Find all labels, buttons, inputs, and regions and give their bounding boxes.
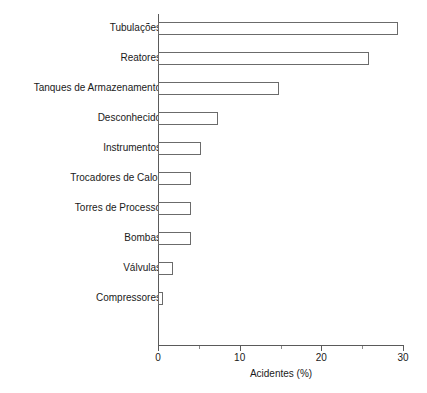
bar-category-label: Compressores (96, 291, 161, 305)
bar-row: Trocadores de Calor (0, 164, 427, 194)
bar (158, 232, 191, 245)
bar (158, 112, 218, 125)
x-tick-label: 10 (234, 352, 245, 364)
bar-category-label: Trocadores de Calor (70, 171, 161, 185)
x-tick-minor (281, 346, 282, 349)
bar-category-label: Instrumentos (103, 141, 161, 155)
x-tick-label: 20 (316, 352, 327, 364)
bars-layer: TubulaçõesReatoresTanques de Armazenamen… (0, 0, 427, 393)
bar (158, 262, 173, 275)
bar-row: Bombas (0, 224, 427, 254)
bar (158, 22, 398, 35)
bar-chart: TubulaçõesReatoresTanques de Armazenamen… (0, 0, 427, 393)
bar (158, 292, 163, 305)
bar (158, 142, 201, 155)
x-axis-title: Acidentes (%) (158, 368, 404, 380)
bar-category-label: Válvulas (123, 261, 161, 275)
bar-row: Instrumentos (0, 134, 427, 164)
bar-row: Válvulas (0, 254, 427, 284)
bar-category-label: Torres de Processo (75, 201, 161, 215)
bar (158, 52, 369, 65)
x-tick-label: 30 (397, 352, 408, 364)
bar (158, 82, 279, 95)
bar-row: Tanques de Armazenamento (0, 74, 427, 104)
x-tick-minor (362, 346, 363, 349)
bar (158, 202, 191, 215)
x-tick-label: 0 (155, 352, 161, 364)
bar-row: Reatores (0, 44, 427, 74)
x-tick-major (158, 346, 159, 351)
bar-row: Compressores (0, 284, 427, 314)
bar-category-label: Tubulações (110, 21, 161, 35)
bar-category-label: Tanques de Armazenamento (34, 81, 161, 95)
bar-row: Torres de Processo (0, 194, 427, 224)
bar-category-label: Reatores (120, 51, 161, 65)
bar-category-label: Bombas (124, 231, 161, 245)
x-tick-major (240, 346, 241, 351)
x-tick-minor (199, 346, 200, 349)
bar-row: Tubulações (0, 14, 427, 44)
x-tick-major (321, 346, 322, 351)
bar-category-label: Desconhecido (98, 111, 161, 125)
bar-row: Desconhecido (0, 104, 427, 134)
bar (158, 172, 191, 185)
x-tick-major (403, 346, 404, 351)
